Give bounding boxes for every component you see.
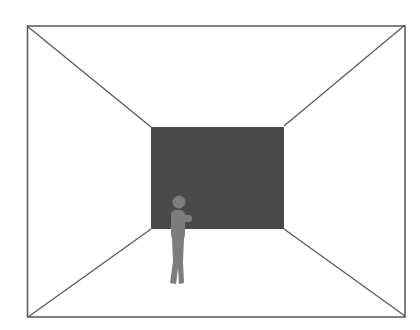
back-wall — [151, 127, 284, 229]
figure-arm — [182, 215, 192, 222]
figure-head — [173, 196, 186, 209]
figure-torso — [171, 210, 185, 240]
room-diagram — [0, 0, 420, 330]
